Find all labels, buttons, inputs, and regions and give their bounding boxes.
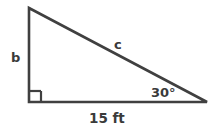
angle-label-30deg: 30° <box>151 86 176 99</box>
base-length-label: 15 ft <box>89 112 125 126</box>
triangle-outline <box>29 8 207 102</box>
side-label-c: c <box>114 38 122 51</box>
side-label-b: b <box>11 51 20 64</box>
right-triangle-figure: b c 30° 15 ft <box>0 0 221 132</box>
